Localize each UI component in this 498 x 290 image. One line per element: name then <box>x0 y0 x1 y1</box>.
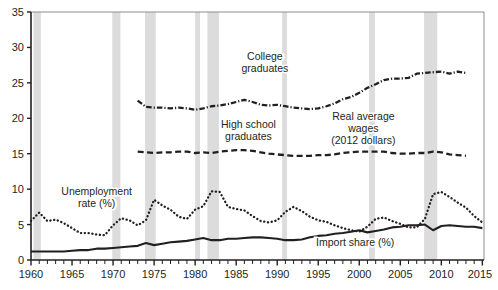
x-tick-label: 1985 <box>224 268 248 280</box>
x-tick-label: 1995 <box>306 268 330 280</box>
x-tick-label: 2015 <box>468 268 492 280</box>
x-tick-label: 1960 <box>19 268 43 280</box>
x-tick-label: 2005 <box>388 268 412 280</box>
college-graduates-label: College <box>247 50 283 62</box>
recession-band <box>33 12 40 260</box>
real-average-wages-label: (2012 dollars) <box>331 134 395 146</box>
college-graduates-label: graduates <box>242 62 289 74</box>
y-tick-label: 10 <box>12 183 24 195</box>
x-tick-label: 1965 <box>60 268 84 280</box>
x-tick-label: 1975 <box>142 268 166 280</box>
x-tick-label: 1970 <box>101 268 125 280</box>
y-tick-label: 5 <box>18 219 24 231</box>
recession-band <box>207 12 218 260</box>
y-tick-label: 0 <box>18 254 24 266</box>
x-tick-label: 1980 <box>183 268 207 280</box>
real-average-wages-label: wages <box>347 122 378 134</box>
x-tick-label: 2000 <box>347 268 371 280</box>
unemployment-rate-label: Unemployment <box>61 185 132 197</box>
recession-band <box>145 12 156 260</box>
unemployment-rate-label: rate (%) <box>78 197 115 209</box>
import-share-label: Import share (%) <box>316 236 394 248</box>
y-tick-label: 20 <box>12 112 24 124</box>
series-line-college-graduates <box>138 72 466 110</box>
x-tick-label: 1990 <box>265 268 289 280</box>
series-line-high-school-graduates <box>138 150 466 156</box>
chart-svg: 0510152025303519601965197019751980198519… <box>0 0 498 290</box>
y-tick-label: 15 <box>12 148 24 160</box>
series-line-import-share <box>31 225 482 252</box>
real-average-wages-label: Real average <box>332 110 395 122</box>
y-tick-label: 35 <box>12 6 24 18</box>
chart-container: 0510152025303519601965197019751980198519… <box>0 0 498 290</box>
x-tick-label: 2010 <box>429 268 453 280</box>
y-tick-label: 25 <box>12 77 24 89</box>
y-tick-label: 30 <box>12 41 24 53</box>
recession-band <box>195 12 200 260</box>
high-school-graduates-label: High school <box>221 118 276 130</box>
high-school-graduates-label: graduates <box>225 130 272 142</box>
recession-band <box>424 12 437 260</box>
